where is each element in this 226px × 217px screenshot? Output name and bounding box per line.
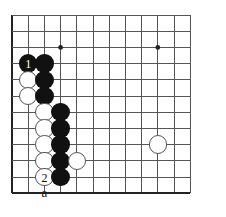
stone-white <box>149 135 167 153</box>
go-diagram: 12 a <box>0 0 226 217</box>
stone-move-number: 2 <box>36 172 52 184</box>
stone-white <box>68 152 86 170</box>
star-point <box>58 45 63 50</box>
star-point <box>155 45 160 50</box>
board-coordinate-label: a <box>34 185 54 201</box>
stone-black <box>51 168 69 186</box>
